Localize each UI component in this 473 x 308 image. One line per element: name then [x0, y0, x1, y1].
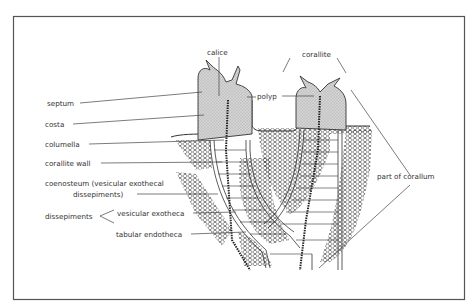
label-dissepiments: dissepiments: [45, 212, 93, 221]
label-coenosteum-1: coenosteum (vesicular exothecal: [45, 179, 164, 188]
label-septum: septum: [47, 99, 74, 108]
diagram-frame: [14, 17, 465, 300]
label-corallite: corallite: [302, 50, 332, 59]
label-columella: columella: [45, 140, 80, 149]
coral-diagram: calice corallite polyp septum costa colu…: [0, 0, 473, 308]
label-part-of-corallum: part of corallum: [377, 172, 435, 181]
label-corallite-wall: corallite wall: [45, 159, 91, 168]
label-coenosteum-2: dissepiments): [73, 190, 124, 199]
label-calice: calice: [207, 48, 228, 57]
label-polyp: polyp: [257, 92, 277, 101]
coenosteum-mesh: [175, 126, 372, 266]
label-tabular-endotheca: tabular endotheca: [116, 230, 182, 239]
label-costa: costa: [45, 120, 64, 129]
label-vesicular-exotheca: vesicular exotheca: [117, 209, 184, 218]
